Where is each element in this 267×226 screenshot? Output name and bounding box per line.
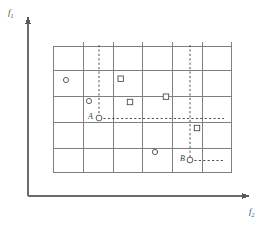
- data-point-square[interactable]: [118, 76, 123, 81]
- grid-group: [53, 42, 232, 173]
- data-point-circle-b[interactable]: [187, 157, 193, 163]
- data-point-circle[interactable]: [86, 98, 91, 103]
- y-axis-label: f1: [8, 7, 14, 19]
- data-point-square[interactable]: [127, 99, 132, 104]
- horizontal-axis-arrow: [242, 193, 250, 199]
- data-point-square[interactable]: [163, 94, 168, 99]
- point-label-b: B: [180, 154, 185, 163]
- point-label-a: A: [88, 112, 93, 121]
- scatter-grid-plot: [0, 0, 267, 226]
- data-point-circle[interactable]: [152, 149, 157, 154]
- reference-lines-group: [99, 45, 224, 161]
- data-point-square[interactable]: [194, 125, 199, 130]
- data-point-circle-a[interactable]: [96, 115, 102, 121]
- data-point-circle[interactable]: [63, 77, 68, 82]
- vertical-axis-arrow: [25, 16, 31, 24]
- figure-container: f1 f2 A B: [0, 0, 267, 226]
- axes-group: [25, 16, 250, 199]
- circle-markers-group: [63, 77, 193, 163]
- x-axis-label: f2: [249, 206, 255, 218]
